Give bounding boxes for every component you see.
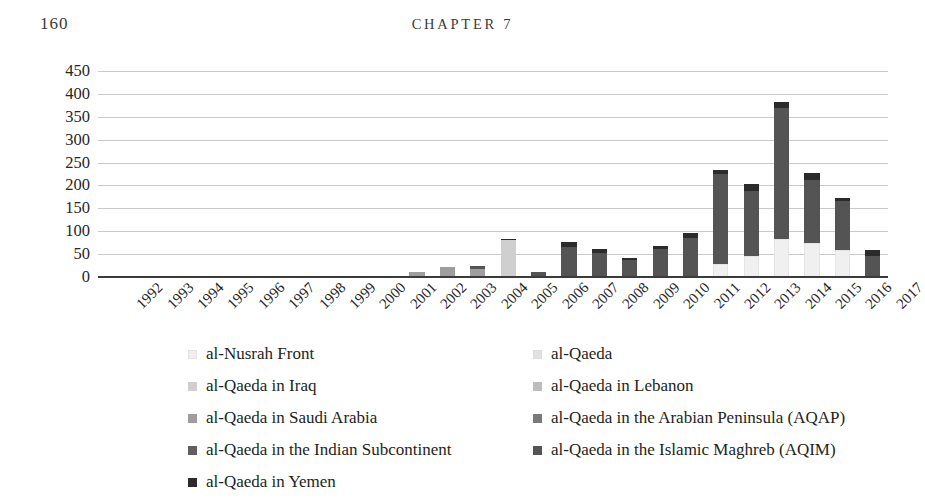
legend-item[interactable]: al-Qaeda in the Islamic Maghreb (AQIM) (533, 440, 836, 460)
legend-swatch-icon (533, 350, 542, 359)
legend-label: al-Qaeda in Yemen (206, 472, 336, 492)
x-axis-tick-label: 2006 (559, 280, 591, 312)
y-axis-tick-label: 300 (36, 131, 90, 148)
x-axis-tick-label: 2000 (377, 280, 409, 312)
y-axis-tick-label: 50 (36, 246, 90, 263)
y-axis-tick-label: 0 (36, 269, 90, 286)
bar-segment (774, 239, 789, 277)
x-axis-tick-label: 2015 (833, 280, 865, 312)
legend-label: al-Qaeda in the Islamic Maghreb (AQIM) (551, 440, 836, 460)
bar-segment (501, 240, 516, 277)
stacked-bar-chart-figure: 050100150200250300350400450 199219931994… (0, 44, 925, 498)
bar-column[interactable] (744, 184, 759, 277)
bar-column[interactable] (592, 249, 607, 277)
plot-area (98, 71, 888, 277)
y-axis-tick-label: 250 (36, 154, 90, 171)
bar-column[interactable] (653, 246, 668, 277)
x-axis-tick-label: 1992 (134, 280, 166, 312)
bar-column[interactable] (865, 250, 880, 277)
x-axis-tick-label: 1995 (225, 280, 257, 312)
bar-series-group (98, 71, 888, 277)
legend-item[interactable]: al-Qaeda (533, 344, 612, 364)
y-axis-tick-labels: 050100150200250300350400450 (36, 71, 90, 277)
bar-column[interactable] (501, 239, 516, 277)
legend-swatch-icon (188, 382, 197, 391)
legend-item[interactable]: al-Qaeda in the Arabian Peninsula (AQAP) (533, 408, 845, 428)
y-axis-tick-label: 150 (36, 200, 90, 217)
bar-column[interactable] (561, 242, 576, 277)
legend-label: al-Qaeda in the Indian Subcontinent (206, 440, 451, 460)
x-axis-tick-label: 1998 (316, 280, 348, 312)
running-head: 160 CHAPTER 7 (0, 0, 925, 44)
x-axis-tick-label: 2002 (438, 280, 470, 312)
legend-swatch-icon (533, 414, 542, 423)
y-axis-tick-label: 400 (36, 86, 90, 103)
bar-segment (622, 260, 637, 277)
x-axis-tick-label: 2017 (894, 280, 925, 312)
legend-swatch-icon (188, 414, 197, 423)
legend-label: al-Qaeda in Lebanon (551, 376, 694, 396)
x-axis-tick-label: 2011 (711, 280, 742, 311)
bar-column[interactable] (774, 102, 789, 277)
bar-segment (774, 108, 789, 240)
legend-label: al-Nusrah Front (206, 344, 314, 364)
x-axis-tick-label: 2004 (499, 280, 531, 312)
bar-segment (804, 243, 819, 277)
bar-column[interactable] (804, 173, 819, 277)
legend-item[interactable]: al-Qaeda in Iraq (188, 376, 316, 396)
bar-segment (744, 191, 759, 257)
x-axis-tick-label: 2014 (802, 280, 834, 312)
legend-item[interactable]: al-Qaeda in Saudi Arabia (188, 408, 377, 428)
bar-column[interactable] (713, 170, 728, 277)
x-axis-tick-label: 2008 (620, 280, 652, 312)
x-axis-tick-label: 2016 (863, 280, 895, 312)
bar-column[interactable] (622, 258, 637, 277)
x-axis-tick-label: 2007 (590, 280, 622, 312)
bar-segment (865, 256, 880, 278)
x-axis-tick-label: 2009 (651, 280, 683, 312)
x-axis-tick-label: 2005 (529, 280, 561, 312)
chapter-title: CHAPTER 7 (0, 16, 925, 33)
legend-item[interactable]: al-Qaeda in Yemen (188, 472, 336, 492)
bar-segment (835, 201, 850, 251)
bar-segment (592, 253, 607, 277)
bar-segment (713, 174, 728, 264)
y-axis-tick-label: 100 (36, 223, 90, 240)
legend-label: al-Qaeda (551, 344, 612, 364)
x-axis-tick-label: 1996 (256, 280, 288, 312)
legend-swatch-icon (533, 446, 542, 455)
legend-item[interactable]: al-Nusrah Front (188, 344, 314, 364)
x-axis-tick-label: 1994 (195, 280, 227, 312)
chart-legend: al-Nusrah Frontal-Qaeda in Iraqal-Qaeda … (0, 344, 925, 498)
x-axis-tick-label: 2013 (772, 280, 804, 312)
y-axis-tick-label: 200 (36, 177, 90, 194)
x-axis-line (98, 276, 888, 278)
legend-swatch-icon (188, 478, 197, 487)
bar-segment (653, 249, 668, 277)
x-axis-tick-label: 1999 (347, 280, 379, 312)
bar-segment (804, 180, 819, 244)
y-axis-tick-label: 450 (36, 63, 90, 80)
legend-swatch-icon (188, 446, 197, 455)
x-axis-tick-labels: 1992199319941995199619971998199920002001… (98, 280, 888, 342)
bar-segment (835, 250, 850, 277)
legend-swatch-icon (533, 382, 542, 391)
x-axis-tick-label: 1997 (286, 280, 318, 312)
legend-label: al-Qaeda in Iraq (206, 376, 316, 396)
x-axis-tick-label: 1993 (164, 280, 196, 312)
legend-swatch-icon (188, 350, 197, 359)
x-axis-tick-label: 2001 (407, 280, 439, 312)
legend-item[interactable]: al-Qaeda in Lebanon (533, 376, 694, 396)
bar-segment (561, 247, 576, 277)
x-axis-tick-label: 2010 (681, 280, 713, 312)
bar-column[interactable] (835, 198, 850, 277)
bar-segment (744, 256, 759, 277)
bar-segment (683, 238, 698, 277)
y-axis-tick-label: 350 (36, 109, 90, 126)
x-axis-tick-label: 2012 (742, 280, 774, 312)
legend-label: al-Qaeda in the Arabian Peninsula (AQAP) (551, 408, 845, 428)
bar-column[interactable] (683, 233, 698, 277)
legend-item[interactable]: al-Qaeda in the Indian Subcontinent (188, 440, 451, 460)
legend-label: al-Qaeda in Saudi Arabia (206, 408, 377, 428)
x-axis-tick-label: 2003 (468, 280, 500, 312)
